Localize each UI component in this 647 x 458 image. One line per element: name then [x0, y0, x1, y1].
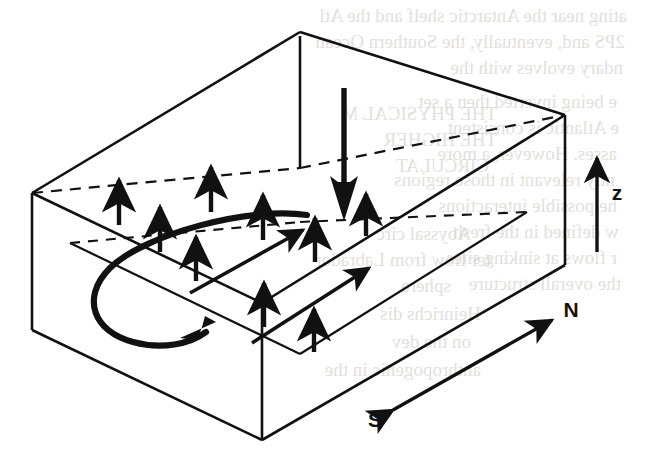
edge-top-front-left: [32, 193, 262, 303]
south-label: S: [368, 408, 382, 431]
bg-text-line: ating near the Antarctic shelf and the A…: [319, 5, 627, 26]
bg-text-line: THE PHYSICAL M: [341, 103, 497, 124]
background-page-text: ating near the Antarctic shelf and the A…: [315, 5, 627, 380]
bg-text-line: 2PS and, eventually, the Southern Ocean: [315, 31, 625, 52]
hidden-edge-back-left: [32, 168, 300, 193]
z-axis-label: z: [612, 181, 623, 204]
bg-text-line: anthropogenic in the: [325, 359, 481, 380]
overturning-loop-arrowhead: [180, 316, 216, 340]
north-label: N: [563, 298, 578, 321]
bg-text-line: w defined in the fresh: [453, 221, 619, 242]
overturning-circulation-figure: ating near the Antarctic shelf and the A…: [0, 0, 647, 458]
bg-text-line: ndary evolves with the: [450, 57, 623, 78]
edge-top-back-left: [32, 32, 300, 193]
bg-text-line: CIRCULAT: [396, 155, 489, 176]
overturning-loop-arrow: [94, 213, 307, 345]
horizontal-flow-arrow-1: [190, 230, 303, 293]
overturning-loop-path: [94, 213, 307, 345]
horizontal-flow-arrow-group: [190, 230, 369, 343]
horizontal-flow-arrow-2: [252, 268, 369, 343]
bg-text-line: Abyssal circ: [377, 223, 471, 244]
downwelling-arrow-head: [330, 176, 358, 221]
diagram-root: ating near the Antarctic shelf and the A…: [0, 0, 647, 458]
bg-text-line: he possible interactions: [439, 195, 617, 216]
